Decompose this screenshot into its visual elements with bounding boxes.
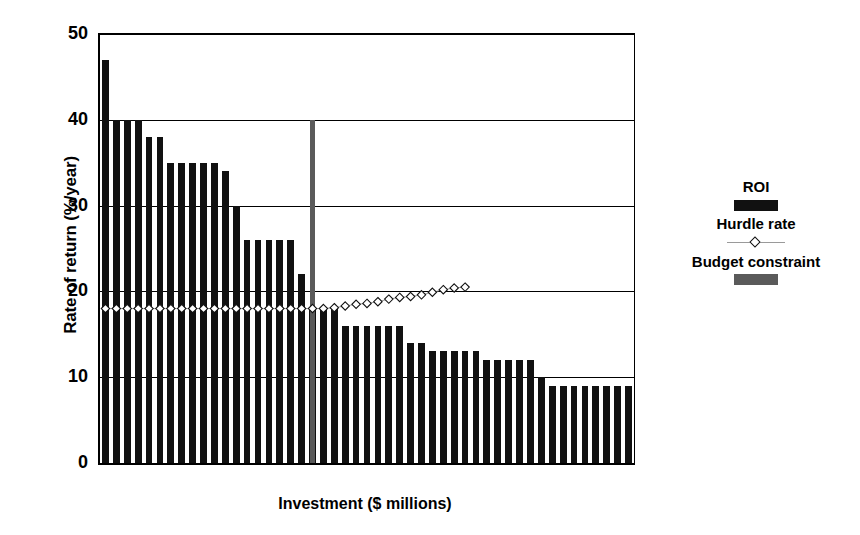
- bar: [353, 326, 360, 463]
- diamond-marker-icon: [428, 288, 436, 296]
- bar: [516, 360, 523, 463]
- legend-swatch-hurdle-rate: [727, 237, 785, 248]
- bar: [200, 163, 207, 463]
- bar: [113, 120, 120, 463]
- diamond-marker-icon: [406, 292, 414, 300]
- bar: [396, 326, 403, 463]
- x-axis-title: Investment ($ millions): [98, 495, 632, 513]
- chart-figure: Rate of return (%/year) 01020304050 Inve…: [0, 0, 860, 535]
- bar: [167, 163, 174, 463]
- bar: [124, 120, 131, 463]
- bar: [146, 137, 153, 463]
- bar: [494, 360, 501, 463]
- bar: [407, 343, 414, 463]
- bar: [582, 386, 589, 463]
- bar: [505, 360, 512, 463]
- bar: [473, 351, 480, 463]
- diamond-marker-icon: [341, 302, 349, 310]
- diamond-marker-icon: [374, 297, 382, 305]
- bar: [375, 326, 382, 463]
- legend-label-roi: ROI: [660, 178, 852, 195]
- y-tick-label: 40: [48, 110, 88, 128]
- diamond-marker-icon: [385, 295, 393, 303]
- bar: [244, 240, 251, 463]
- bar: [592, 386, 599, 463]
- bar: [211, 163, 218, 463]
- bar: [429, 351, 436, 463]
- gridline: [100, 34, 634, 35]
- bar: [538, 377, 545, 463]
- budget-constraint-bar: [310, 120, 315, 463]
- bar: [549, 386, 556, 463]
- bar: [342, 326, 349, 463]
- bar: [560, 386, 567, 463]
- bar: [418, 343, 425, 463]
- bar: [222, 171, 229, 463]
- bar: [135, 120, 142, 463]
- bar: [603, 386, 610, 463]
- bar: [483, 360, 490, 463]
- bar: [255, 240, 262, 463]
- bar: [331, 309, 338, 463]
- bar: [364, 326, 371, 463]
- bar: [276, 240, 283, 463]
- bar: [287, 240, 294, 463]
- bar: [527, 360, 534, 463]
- bar: [157, 137, 164, 463]
- y-tick-label: 50: [48, 24, 88, 42]
- bar: [625, 386, 632, 463]
- legend-swatch-roi: [734, 200, 778, 211]
- bar: [385, 326, 392, 463]
- y-tick-label: 10: [48, 367, 88, 385]
- bar: [178, 163, 185, 463]
- legend-label-budget-constraint: Budget constraint: [660, 253, 852, 270]
- bar: [462, 351, 469, 463]
- legend-label-hurdle-rate: Hurdle rate: [660, 215, 852, 232]
- diamond-marker-icon: [395, 293, 403, 301]
- bar: [440, 351, 447, 463]
- bar: [189, 163, 196, 463]
- gridline: [100, 120, 634, 121]
- bar: [614, 386, 621, 463]
- bar: [320, 309, 327, 463]
- diamond-marker-icon: [363, 299, 371, 307]
- chart-legend: ROI Hurdle rate Budget constraint: [660, 178, 852, 290]
- plot-area: [98, 33, 635, 465]
- legend-swatch-budget-constraint: [734, 274, 778, 285]
- legend-swatch-hurdle-row: [660, 233, 852, 253]
- y-tick-label: 30: [48, 196, 88, 214]
- bar: [451, 351, 458, 463]
- bar: [266, 240, 273, 463]
- legend-swatch-roi-row: [660, 195, 852, 215]
- bar: [571, 386, 578, 463]
- bar: [102, 60, 109, 463]
- legend-swatch-budget-row: [660, 270, 852, 290]
- diamond-marker-icon: [352, 300, 360, 308]
- diamond-marker-icon: [439, 285, 447, 293]
- y-tick-label: 20: [48, 281, 88, 299]
- y-axis-tick-labels: 01020304050: [38, 0, 88, 535]
- y-tick-label: 0: [48, 453, 88, 471]
- bar: [233, 206, 240, 463]
- diamond-marker-icon: [749, 236, 760, 247]
- bar: [298, 274, 305, 463]
